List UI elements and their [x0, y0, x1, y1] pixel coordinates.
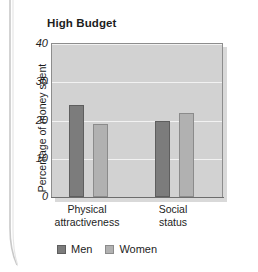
bar-men-0: [69, 105, 84, 197]
legend-item-men[interactable]: Men: [57, 243, 92, 255]
chart-legend: MenWomen: [57, 243, 157, 255]
category-label-line: attractiveness: [37, 216, 137, 229]
category-label-line: Physical: [37, 203, 137, 216]
legend-label: Women: [119, 243, 157, 255]
legend-swatch-icon: [57, 245, 66, 254]
y-axis-tick-labels: 010203040: [22, 43, 48, 198]
page-background: High Budget Percentage of money spent 01…: [0, 0, 258, 272]
legend-label: Men: [71, 243, 92, 255]
bar-women-1: [179, 113, 194, 197]
x-axis-line: [51, 197, 224, 198]
y-axis-tick-label: 10: [36, 152, 48, 164]
legend-item-women[interactable]: Women: [105, 243, 157, 255]
category-label-line: status: [123, 216, 223, 229]
chart-title: High Budget: [47, 17, 116, 29]
plot-area: [51, 43, 223, 198]
bar-women-0: [93, 124, 108, 197]
x-axis-category-label: Physicalattractiveness: [37, 203, 137, 229]
y-axis-tick-label: 40: [36, 37, 48, 49]
category-label-line: Social: [123, 203, 223, 216]
gridline: [52, 82, 222, 83]
legend-swatch-icon: [105, 245, 114, 254]
bar-men-1: [155, 121, 170, 198]
x-axis-category-label: Socialstatus: [123, 203, 223, 229]
bar-chart-figure: High Budget Percentage of money spent 01…: [0, 0, 258, 272]
y-axis-tick-label: 0: [42, 190, 48, 202]
y-axis-tick-label: 30: [36, 75, 48, 87]
y-axis-tick-label: 20: [36, 114, 48, 126]
gridline: [52, 44, 222, 45]
